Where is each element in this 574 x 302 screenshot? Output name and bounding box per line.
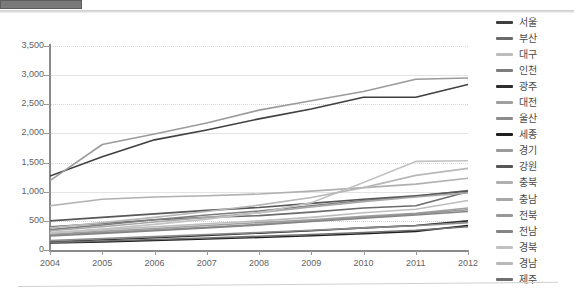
- series-line: [50, 84, 468, 176]
- y-axis-tick: [44, 46, 50, 47]
- y-axis-tick: [44, 133, 50, 134]
- y-axis-label: 3,500: [4, 41, 44, 50]
- legend-label: 강원: [519, 161, 537, 172]
- legend-swatch: [496, 278, 513, 281]
- legend-swatch: [496, 214, 513, 217]
- legend-swatch: [496, 165, 513, 168]
- legend-swatch: [496, 230, 513, 233]
- series-lines: [50, 46, 468, 250]
- legend-swatch: [496, 21, 513, 24]
- legend-label: 대구: [519, 49, 537, 60]
- legend-item[interactable]: 광주: [496, 78, 574, 94]
- y-axis-label: 1,500: [4, 158, 44, 167]
- series-line: [50, 178, 468, 205]
- legend-swatch: [496, 101, 513, 104]
- legend-label: 인천: [519, 65, 537, 76]
- legend-item[interactable]: 서울: [496, 14, 574, 30]
- legend-label: 서울: [519, 17, 537, 28]
- y-axis-tick: [44, 75, 50, 76]
- y-axis-label: 3,000: [4, 70, 44, 79]
- legend-swatch: [496, 246, 513, 249]
- x-axis-label: 2005: [82, 258, 122, 268]
- bottom-divider: [18, 282, 558, 287]
- legend-label: 울산: [519, 113, 537, 124]
- line-chart: 05001,0001,5002,0002,5003,0003,500 20042…: [0, 13, 494, 275]
- x-axis-tick: [416, 250, 417, 255]
- legend-item[interactable]: 세종: [496, 127, 574, 143]
- x-axis-tick: [468, 250, 469, 255]
- legend-item[interactable]: 대전: [496, 94, 574, 110]
- chart-legend: 서울부산대구인천광주대전울산세종경기강원충북충남전북전남경북경남제주: [496, 14, 574, 290]
- legend-label: 세종: [519, 129, 537, 140]
- window-chrome-fragment: [0, 0, 82, 9]
- y-axis-label: 500: [4, 216, 44, 225]
- legend-swatch: [496, 85, 513, 88]
- legend-swatch: [496, 262, 513, 265]
- x-axis-tick: [207, 250, 208, 255]
- legend-swatch: [496, 37, 513, 40]
- legend-item[interactable]: 경기: [496, 143, 574, 159]
- y-axis-labels: 05001,0001,5002,0002,5003,0003,500: [0, 13, 44, 275]
- legend-item[interactable]: 제주: [496, 272, 574, 288]
- legend-swatch: [496, 69, 513, 72]
- legend-label: 경북: [519, 242, 537, 253]
- legend-label: 광주: [519, 81, 537, 92]
- x-axis-label: 2004: [30, 258, 70, 268]
- legend-swatch: [496, 133, 513, 136]
- x-axis-tick: [311, 250, 312, 255]
- legend-label: 경기: [519, 145, 537, 156]
- x-axis-tick: [259, 250, 260, 255]
- legend-swatch: [496, 53, 513, 56]
- y-axis-tick: [44, 104, 50, 105]
- legend-item[interactable]: 충남: [496, 191, 574, 207]
- x-axis-label: 2008: [239, 258, 279, 268]
- legend-item[interactable]: 대구: [496, 46, 574, 62]
- legend-swatch: [496, 149, 513, 152]
- x-axis-tick: [155, 250, 156, 255]
- legend-item[interactable]: 경남: [496, 255, 574, 271]
- legend-item[interactable]: 충북: [496, 175, 574, 191]
- x-axis-label: 2012: [448, 258, 488, 268]
- legend-swatch: [496, 117, 513, 120]
- legend-item[interactable]: 전북: [496, 207, 574, 223]
- y-axis-label: 1,000: [4, 187, 44, 196]
- x-axis-label: 2006: [135, 258, 175, 268]
- legend-item[interactable]: 경북: [496, 239, 574, 255]
- legend-label: 충북: [519, 177, 537, 188]
- legend-swatch: [496, 198, 513, 201]
- x-axis-tick: [364, 250, 365, 255]
- y-axis-label: 2,500: [4, 99, 44, 108]
- legend-item[interactable]: 울산: [496, 111, 574, 127]
- x-axis-label: 2011: [396, 258, 436, 268]
- x-axis-tick: [50, 250, 51, 255]
- legend-item[interactable]: 인천: [496, 62, 574, 78]
- x-axis-label: 2007: [187, 258, 227, 268]
- legend-swatch: [496, 181, 513, 184]
- legend-item[interactable]: 전남: [496, 223, 574, 239]
- y-axis-tick: [44, 192, 50, 193]
- y-axis-tick: [44, 221, 50, 222]
- legend-label: 충남: [519, 194, 537, 205]
- y-axis-label: 2,000: [4, 128, 44, 137]
- legend-item[interactable]: 강원: [496, 159, 574, 175]
- y-axis-label: 0: [4, 245, 44, 254]
- x-axis-tick: [102, 250, 103, 255]
- x-axis-label: 2009: [291, 258, 331, 268]
- legend-label: 전남: [519, 226, 537, 237]
- legend-label: 경남: [519, 258, 537, 269]
- y-axis-tick: [44, 163, 50, 164]
- x-axis-label: 2010: [344, 258, 384, 268]
- legend-label: 대전: [519, 97, 537, 108]
- legend-label: 전북: [519, 210, 537, 221]
- legend-item[interactable]: 부산: [496, 30, 574, 46]
- legend-label: 부산: [519, 33, 537, 44]
- legend-label: 제주: [519, 274, 537, 285]
